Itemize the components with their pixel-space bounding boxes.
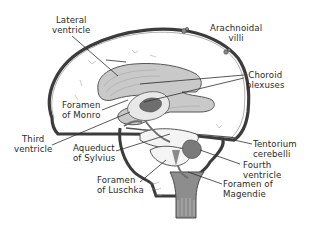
label-line: of Monro: [62, 110, 101, 120]
label-aqueduct-of-sylvius: Aqueduct of Sylvius: [73, 143, 115, 163]
label-third-ventricle: Third ventricle: [14, 134, 52, 154]
label-line: cerebelli: [253, 149, 297, 159]
label-arachnoidal-villi: Arachnoidal villi: [210, 23, 262, 43]
label-line: of Sylvius: [73, 153, 115, 163]
label-foramen-of-magendie: Foramen of Magendie: [223, 179, 273, 199]
label-tentorium-cerebelli: Tentorium cerebelli: [253, 139, 297, 159]
label-foramen-of-monro: Foramen of Monro: [62, 100, 101, 120]
label-foramen-of-luschka: Foramen of Luschka: [97, 175, 144, 195]
label-line: Tentorium: [253, 139, 297, 149]
label-line: of Luschka: [97, 185, 144, 195]
label-line: Third: [14, 134, 52, 144]
label-line: Arachnoidal: [210, 23, 262, 33]
label-line: ventricle: [14, 144, 52, 154]
label-line: ventricle: [52, 25, 90, 35]
label-lateral-ventricle: Lateral ventricle: [52, 15, 90, 35]
fourth-ventricle-shape: [182, 140, 201, 159]
label-line: Foramen of: [223, 179, 273, 189]
label-line: Magendie: [223, 189, 273, 199]
ventricular-system-diagram: Lateral ventricle Arachnoidal villi Chor…: [0, 0, 315, 227]
label-line: Lateral: [52, 15, 90, 25]
label-line: Fourth: [243, 160, 281, 170]
label-line: Choroid: [246, 70, 285, 80]
label-line: Foramen: [62, 100, 101, 110]
label-choroid-plexuses: Choroid plexuses: [246, 70, 285, 90]
label-fourth-ventricle: Fourth ventricle: [243, 160, 281, 180]
label-line: Foramen: [97, 175, 144, 185]
label-line: villi: [210, 33, 262, 43]
label-line: plexuses: [246, 80, 285, 90]
label-line: Aqueduct: [73, 143, 115, 153]
